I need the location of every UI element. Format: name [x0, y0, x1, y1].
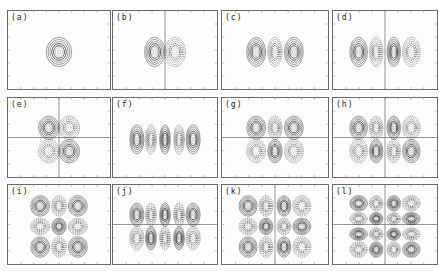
- contour-lobe: [52, 237, 66, 258]
- contour-lobe: [370, 196, 383, 211]
- contour-plot: [113, 98, 217, 177]
- contour-lobe: [277, 196, 291, 217]
- contour-lobe: [370, 139, 383, 162]
- contour-lobe: [145, 37, 165, 66]
- panel-label: (g): [225, 100, 242, 109]
- contour-lobe: [247, 116, 266, 139]
- contour-lobe: [186, 203, 200, 226]
- contour-lobe: [284, 139, 303, 162]
- contour-lobe: [130, 125, 144, 154]
- contour-lobe: [68, 218, 87, 234]
- contour-lobe: [59, 139, 79, 162]
- contour-lobe: [239, 196, 257, 217]
- contour-lobe: [284, 116, 303, 139]
- contour-plot: [333, 185, 437, 264]
- contour-lobe: [59, 116, 79, 139]
- contour-lobe: [39, 139, 59, 162]
- panel-k: (k): [221, 184, 329, 265]
- contour-lobe: [165, 37, 185, 66]
- contour-lobe: [370, 213, 383, 225]
- contour-lobe: [403, 213, 421, 225]
- contour-lobe: [403, 37, 421, 66]
- panel-c: (c): [221, 10, 329, 90]
- contour-plot: [8, 11, 110, 89]
- contour-lobe: [293, 196, 311, 217]
- contour-lobe: [68, 196, 87, 217]
- panel-label: (f): [116, 100, 133, 109]
- contour-lobe: [350, 213, 368, 225]
- contour-plot: [333, 98, 437, 177]
- contour-lobe: [247, 37, 266, 66]
- contour-lobe: [350, 242, 368, 257]
- contour-lobe: [277, 218, 291, 234]
- contour-lobe: [239, 237, 257, 258]
- contour-lobe: [146, 125, 157, 154]
- contour-lobe: [350, 228, 368, 240]
- contour-lobe: [403, 196, 421, 211]
- panel-j: (j): [112, 184, 218, 265]
- contour-plot: [222, 185, 328, 264]
- contour-lobe: [387, 213, 400, 225]
- panel-b: (b): [112, 10, 218, 90]
- panel-label: (a): [11, 13, 28, 22]
- contour-lobe: [403, 139, 421, 162]
- contour-lobe: [268, 37, 282, 66]
- contour-lobe: [268, 139, 282, 162]
- contour-plot: [333, 11, 437, 89]
- contour-lobe: [146, 226, 157, 249]
- panel-d: (d): [332, 10, 438, 90]
- panel-a: (a): [7, 10, 111, 90]
- contour-plot: [222, 11, 328, 89]
- contour-lobe: [52, 218, 66, 234]
- contour-lobe: [387, 242, 400, 257]
- contour-lobe: [350, 37, 368, 66]
- panel-label: (l): [336, 187, 353, 196]
- panel-label: (k): [225, 187, 242, 196]
- contour-lobe: [293, 218, 311, 234]
- contour-lobe: [293, 237, 311, 258]
- contour-lobe: [387, 228, 400, 240]
- contour-lobe: [387, 196, 400, 211]
- contour-lobe: [350, 139, 368, 162]
- contour-lobe: [370, 37, 383, 66]
- contour-lobe: [186, 125, 200, 154]
- contour-lobe: [350, 116, 368, 139]
- contour-lobe: [247, 139, 266, 162]
- contour-lobe: [277, 237, 291, 258]
- panel-e: (e): [7, 97, 111, 178]
- contour-lobe: [130, 203, 144, 226]
- contour-plot: [8, 98, 110, 177]
- panel-label: (e): [11, 100, 28, 109]
- contour-lobe: [403, 242, 421, 257]
- panel-label: (j): [116, 187, 133, 196]
- contour-plot: [222, 98, 328, 177]
- contour-lobe: [174, 203, 185, 226]
- contour-lobe: [46, 37, 71, 66]
- contour-plot: [113, 185, 217, 264]
- contour-lobe: [146, 203, 157, 226]
- contour-lobe: [239, 218, 257, 234]
- panel-f: (f): [112, 97, 218, 178]
- panel-l: (l): [332, 184, 438, 265]
- contour-lobe: [387, 139, 400, 162]
- contour-lobe: [174, 226, 185, 249]
- contour-lobe: [160, 226, 171, 249]
- contour-lobe: [370, 116, 383, 139]
- contour-lobe: [387, 37, 400, 66]
- contour-lobe: [403, 228, 421, 240]
- contour-lobe: [370, 228, 383, 240]
- contour-lobe: [370, 242, 383, 257]
- panel-i: (i): [7, 184, 111, 265]
- contour-lobe: [284, 37, 303, 66]
- contour-lobe: [39, 116, 59, 139]
- contour-lobe: [160, 203, 171, 226]
- contour-lobe: [160, 125, 171, 154]
- panel-label: (i): [11, 187, 28, 196]
- contour-plot: [113, 11, 217, 89]
- panel-label: (h): [336, 100, 353, 109]
- contour-lobe: [268, 116, 282, 139]
- contour-lobe: [31, 218, 50, 234]
- contour-lobe: [31, 196, 50, 217]
- contour-lobe: [387, 116, 400, 139]
- panel-g: (g): [221, 97, 329, 178]
